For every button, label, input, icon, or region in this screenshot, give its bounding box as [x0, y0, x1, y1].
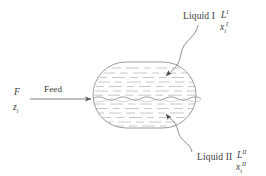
- feed-label: Feed: [44, 85, 62, 94]
- process-flow-diagram: Liquid I LI xiI Liquid II LII xiII Feed …: [0, 0, 266, 176]
- liquid-1-flow-symbol: LI: [221, 9, 228, 21]
- liquid-1-flow-superscript: I: [226, 9, 228, 15]
- liquid-2-flow-symbol: LII: [237, 149, 246, 161]
- feed-composition-symbol: zi: [13, 103, 18, 114]
- liquid-2-composition-subscript: i: [240, 168, 242, 174]
- feed-flow-base: F: [14, 87, 20, 97]
- liquid-1-composition-subscript: i: [224, 28, 226, 34]
- liquid-2-label: Liquid II: [197, 153, 232, 163]
- liquid-1-label: Liquid I: [183, 12, 215, 22]
- liquid-2-composition-superscript: II: [242, 161, 246, 167]
- feed-flow-symbol: F: [14, 88, 20, 98]
- feed-composition-subscript: i: [17, 108, 19, 114]
- liquid-1-composition-symbol: xiI: [220, 21, 228, 34]
- liquid-2-flow-superscript: II: [242, 149, 246, 155]
- liquid-1-composition-superscript: I: [226, 21, 228, 27]
- liquid-2-composition-symbol: xiII: [236, 161, 246, 174]
